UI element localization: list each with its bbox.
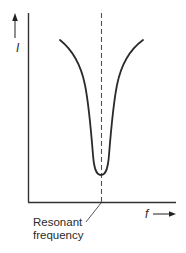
current-curve [60,40,143,175]
y-arrow-icon [12,13,18,38]
x-arrow-icon [153,211,176,217]
annotation-pointer [86,203,101,222]
resonant-label-line2: frequency [33,229,84,242]
y-axis-label: I [16,42,19,55]
resonant-frequency-label: Resonant frequency [33,216,84,242]
resonance-chart [0,0,186,253]
x-axis-label: f [145,208,148,221]
resonant-label-line1: Resonant [33,216,84,229]
